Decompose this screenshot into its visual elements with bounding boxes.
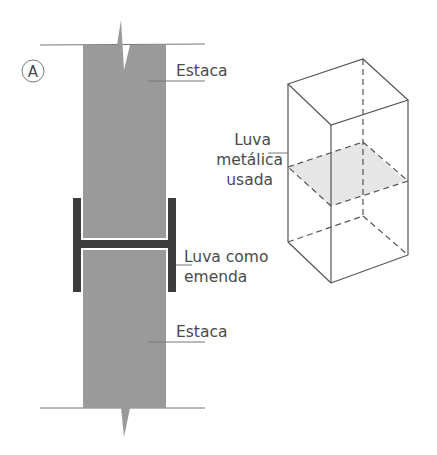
sleeve-plane	[288, 142, 405, 206]
label-splice-line1: Luva como	[184, 248, 268, 266]
lower-pile	[83, 250, 166, 437]
label-splice-line2: emenda	[184, 268, 247, 286]
label-sleeve-line1: Luva	[234, 131, 271, 149]
top-cut-line	[40, 44, 205, 45]
pile-splice-diagram: A Estaca Luva como emenda Estaca	[0, 0, 437, 455]
label-pile-bottom: Estaca	[176, 323, 227, 341]
label-pile-top: Estaca	[176, 62, 227, 80]
upper-pile	[83, 20, 166, 238]
label-sleeve-line2: metálica	[216, 151, 283, 169]
label-sleeve-line3: usada	[226, 171, 273, 189]
right-flange	[168, 198, 176, 292]
left-flange	[73, 198, 81, 292]
sleeve-box-3d	[288, 59, 408, 283]
web	[81, 240, 168, 248]
panel-label: A	[28, 63, 39, 81]
